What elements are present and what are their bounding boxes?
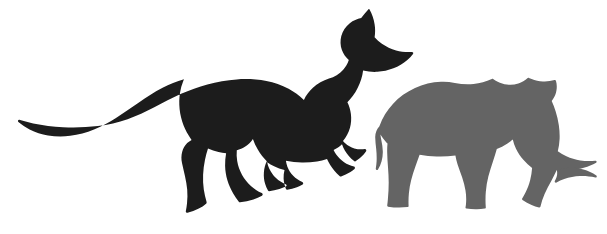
silhouette-canvas bbox=[0, 0, 607, 234]
size-comparison-figure: Size comparison silhouettes bbox=[0, 0, 607, 234]
